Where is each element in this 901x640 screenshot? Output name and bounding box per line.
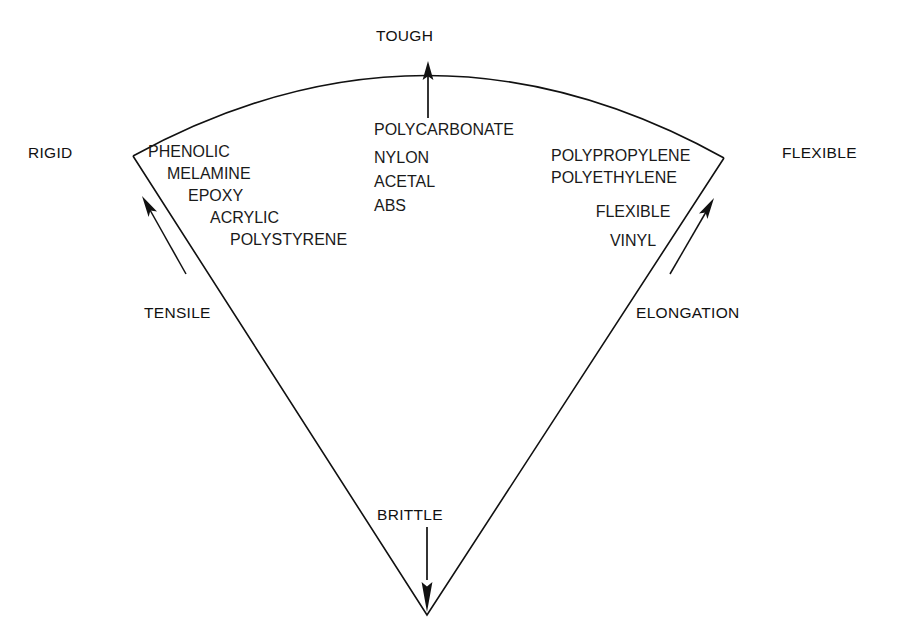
material-item: ACRYLIC [210, 207, 347, 229]
material-cluster-flexible: POLYPROPYLENE POLYETHYLENE FLEXIBLE VINY… [551, 145, 715, 252]
material-item: POLYCARBONATE [374, 118, 514, 142]
material-item: ABS [374, 194, 514, 218]
axis-label-rigid: RIGID [28, 145, 73, 161]
axis-label-flexible: FLEXIBLE [782, 145, 857, 161]
cone-graphics [0, 0, 901, 640]
material-item: POLYSTYRENE [230, 229, 347, 251]
material-item: MELAMINE [167, 163, 347, 185]
material-item: POLYETHYLENE [551, 167, 715, 189]
material-item: FLEXIBLE [551, 201, 715, 223]
material-item: VINYL [551, 230, 715, 252]
brittle-arrow [422, 527, 433, 612]
material-item: PHENOLIC [148, 141, 347, 163]
arrow-label-tensile: TENSILE [144, 305, 211, 321]
tough-arrow [423, 61, 434, 118]
axis-label-tough: TOUGH [376, 28, 433, 44]
arrow-label-elongation: ELONGATION [636, 305, 739, 321]
material-item: EPOXY [188, 185, 347, 207]
material-item: ACETAL [374, 170, 514, 194]
material-cluster-rigid: PHENOLIC MELAMINE EPOXY ACRYLIC POLYSTYR… [148, 141, 347, 251]
material-item: NYLON [374, 146, 514, 170]
material-cluster-tough: POLYCARBONATE NYLON ACETAL ABS [374, 118, 514, 218]
axis-label-brittle: BRITTLE [377, 507, 443, 523]
property-cone-diagram: RIGID FLEXIBLE TOUGH BRITTLE TENSILE ELO… [0, 0, 901, 640]
material-item: POLYPROPYLENE [551, 145, 715, 167]
